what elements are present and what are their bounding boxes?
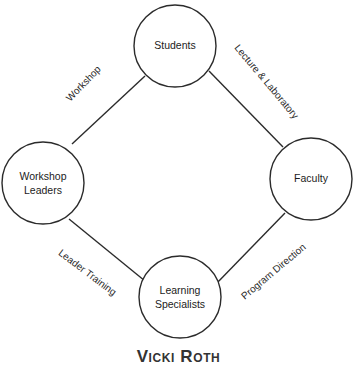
- edge-lecture-laboratory-label: Lecture & Laboratory: [232, 42, 300, 121]
- edge-workshop-label: Workshop: [64, 63, 103, 103]
- diagram-page: Students Workshop Leaders Faculty Learni…: [0, 0, 357, 373]
- edge-leader-training-label: Leader Training: [56, 247, 118, 298]
- node-students-label: Students: [154, 39, 195, 51]
- node-learning-specialists-label-line1: Learning: [160, 284, 201, 296]
- node-workshop-leaders-label-line1: Workshop: [19, 170, 66, 182]
- node-workshop-leaders-label-line2: Leaders: [24, 184, 62, 196]
- figure-caption: Vicki Roth: [0, 347, 357, 367]
- node-learning-specialists-label-line2: Specialists: [155, 298, 205, 310]
- node-faculty-label: Faculty: [294, 172, 329, 184]
- relationship-diagram: Students Workshop Leaders Faculty Learni…: [0, 0, 357, 373]
